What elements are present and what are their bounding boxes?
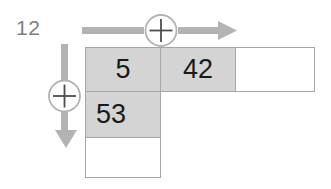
- arrow-right-shaft-right: [178, 27, 220, 34]
- arrow-down-shaft-bottom: [61, 111, 68, 133]
- grid-cell-r2c1[interactable]: 53: [85, 91, 161, 138]
- row-operator-arrow: [82, 14, 242, 50]
- worksheet-canvas: 12 5 42 53: [0, 0, 331, 189]
- column-operator-arrow: [48, 44, 84, 150]
- total-label: 12: [16, 16, 40, 40]
- arrow-down-head: [55, 130, 77, 148]
- grid-cell-r1c2[interactable]: 42: [160, 47, 236, 92]
- arrow-right-head: [218, 21, 237, 40]
- grid-cell-r1c3[interactable]: [235, 47, 315, 92]
- grid-cell-r3c1[interactable]: [85, 137, 161, 178]
- arrow-right-shaft-left: [82, 27, 144, 34]
- grid-cell-r1c1[interactable]: 5: [85, 47, 161, 92]
- arrow-down-shaft-top: [61, 44, 68, 80]
